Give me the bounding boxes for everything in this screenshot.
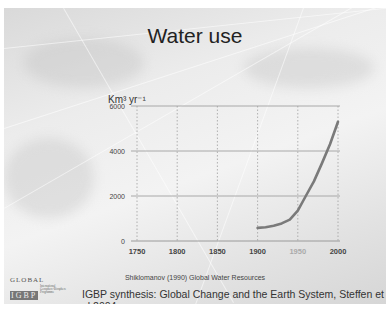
x-tick-label: 1950	[289, 247, 306, 256]
slide: Water use Km³ yr⁻¹ 020004000600017501800…	[4, 8, 386, 304]
citation: IGBP synthesis: Global Change and the Ea…	[82, 288, 386, 304]
x-tick-label: 1900	[249, 247, 266, 256]
x-tick-label: 1850	[209, 247, 226, 256]
y-tick-label: 0	[121, 238, 125, 245]
x-tick-label: 1800	[169, 247, 186, 256]
y-tick-label: 6000	[109, 103, 125, 110]
y-tick-label: 4000	[109, 148, 125, 155]
x-tick-label: 2000	[330, 247, 347, 256]
x-tick-label: 1750	[129, 247, 146, 256]
global-igbp-change-logo: GLOBAL IGBP CHANGE International Geosphe…	[10, 276, 74, 302]
water-use-line-chart: 0200040006000175018001850190019502000	[4, 8, 386, 304]
y-tick-label: 2000	[109, 193, 125, 200]
